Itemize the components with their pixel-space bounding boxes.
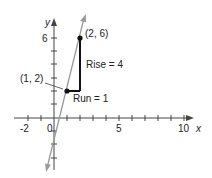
point-1-2-label: (1, 2) (20, 73, 43, 84)
x-tick-label-5: 5 (116, 123, 122, 134)
point-2-6 (77, 35, 82, 40)
x-axis-arrow-icon (186, 115, 194, 121)
slope-diagram: (2, 6) (1, 2) Rise = 4 Run = 1 -2 0 5 10… (0, 0, 212, 178)
y-tick-label-6: 6 (42, 33, 48, 44)
x-tick-label-0: 0 (47, 123, 53, 134)
point-1-2 (64, 88, 69, 93)
line-arrow-down-icon (43, 163, 51, 172)
run-label: Run = 1 (73, 93, 109, 104)
y-axis-arrow-icon (51, 18, 57, 26)
line-arrow-up-icon (80, 13, 88, 22)
y-axis-label: y (44, 17, 51, 28)
x-tick-label-10: 10 (178, 123, 190, 134)
point-2-6-label: (2, 6) (85, 28, 108, 39)
x-tick-label-neg2: -2 (20, 123, 29, 134)
rise-label: Rise = 4 (86, 59, 123, 70)
x-axis-label: x (195, 123, 202, 134)
